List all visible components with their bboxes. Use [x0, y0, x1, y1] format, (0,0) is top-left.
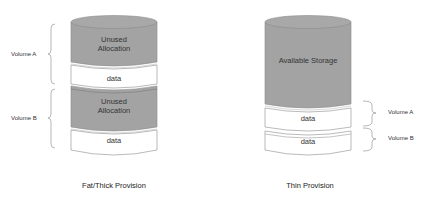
provisioning-diagram: [0, 0, 427, 202]
thick-volume-a-bracket: [48, 24, 55, 84]
thin-cylinder: [265, 16, 351, 156]
unused-line-2: Allocation: [98, 106, 131, 115]
thick-provision-caption: Fat/Thick Provision: [82, 181, 146, 190]
thin-volume-b-bracket: [363, 128, 376, 151]
thin-available-storage: [265, 22, 351, 108]
unused-line-1: Unused: [98, 35, 131, 44]
thick-volume-b-data-text: data: [107, 136, 122, 145]
thin-volume-b-data-text: data: [301, 137, 316, 146]
thin-volume-a-label: Volume A: [388, 109, 413, 115]
thick-volume-a-label: Volume A: [11, 51, 36, 57]
thick-cylinder-top: [71, 16, 157, 29]
thick-volume-b-label: Volume B: [11, 115, 37, 121]
thick-volume-b-unused-text: Unused Allocation: [98, 97, 131, 115]
thin-cylinder-top: [265, 16, 351, 29]
unused-line-2: Allocation: [98, 44, 131, 53]
thin-volume-a-data-text: data: [301, 114, 316, 123]
thick-volume-a-unused-text: Unused Allocation: [98, 35, 131, 53]
thick-volume-a-data-text: data: [107, 74, 122, 83]
thin-volume-a-bracket: [363, 101, 376, 126]
thin-provision-caption: Thin Provision: [286, 181, 334, 190]
unused-line-1: Unused: [98, 97, 131, 106]
thin-volume-b-label: Volume B: [388, 135, 414, 141]
thick-volume-b-bracket: [48, 89, 55, 148]
thin-available-storage-text: Available Storage: [279, 56, 338, 65]
